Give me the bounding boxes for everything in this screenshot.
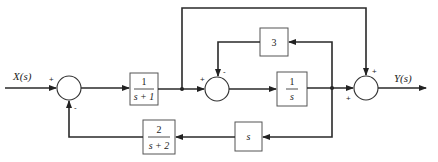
sum3-left-plus-sign: +	[346, 94, 351, 103]
sum3-top-plus-sign: +	[372, 67, 377, 76]
sum1-minus-sign: -	[74, 103, 77, 112]
block-h3: 3	[260, 28, 288, 56]
h3-gain: 3	[272, 37, 277, 48]
g2-denominator: s	[290, 91, 294, 102]
output-label: Y(s)	[394, 72, 412, 85]
h2-to-sum1-line	[69, 101, 143, 137]
sum2-minus-sign: -	[223, 67, 226, 76]
block-diagram: X(s) + - 1 s + 1 + - 1 s 3 s	[0, 0, 438, 162]
summing-junction-3	[354, 76, 378, 100]
g2-numerator: 1	[290, 76, 295, 87]
summing-junction-1	[57, 76, 81, 100]
block-g2: 1 s	[277, 72, 307, 106]
block-g1: 1 s + 1	[130, 73, 158, 105]
h2-numerator: 2	[157, 124, 162, 135]
sum1-plus-sign: +	[49, 75, 54, 84]
input-label: X(s)	[12, 70, 32, 83]
block-h2: 2 s + 2	[143, 120, 175, 154]
g1-denominator: s + 1	[134, 91, 155, 102]
h2-denominator: s + 2	[149, 140, 170, 151]
block-hs: s	[235, 122, 262, 151]
summing-junction-2	[205, 77, 229, 101]
g1-numerator: 1	[142, 76, 147, 87]
sum2-plus-sign: +	[200, 75, 205, 84]
hs-label: s	[247, 131, 251, 142]
